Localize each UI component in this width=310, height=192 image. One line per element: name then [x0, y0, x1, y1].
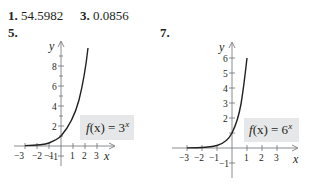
- svg-text:−3: −3: [14, 151, 24, 161]
- svg-text:3: 3: [94, 151, 99, 161]
- y-tick-labels: −124 68: [48, 62, 58, 162]
- curve-6-pow-x: [187, 58, 247, 148]
- svg-text:−1: −1: [219, 159, 229, 169]
- svg-text:2: 2: [259, 153, 264, 163]
- graphs-canvas: −3−2−1 123 −124 68 x y f(x) = 3x: [0, 0, 310, 192]
- y-axis-label: y: [48, 39, 55, 53]
- svg-text:6: 6: [223, 54, 228, 64]
- function-label: f(x) = 3x: [86, 119, 129, 135]
- svg-text:3: 3: [274, 153, 279, 163]
- function-label: f(x) = 6x: [249, 121, 292, 137]
- svg-text:5: 5: [223, 69, 228, 79]
- svg-text:3: 3: [223, 99, 228, 109]
- graph-7: −3−2−1 123 −123 456 x y f(x) = 6x: [172, 40, 299, 178]
- svg-text:−2: −2: [32, 151, 42, 161]
- svg-text:1: 1: [244, 153, 249, 163]
- y-tick-labels: −123 456: [219, 54, 229, 169]
- svg-text:6: 6: [52, 82, 57, 92]
- svg-text:−1: −1: [48, 152, 58, 162]
- y-axis-label: y: [218, 40, 225, 54]
- graph-5: −3−2−1 123 −124 68 x y f(x) = 3x: [14, 39, 134, 166]
- svg-text:1: 1: [70, 151, 75, 161]
- svg-text:2: 2: [82, 151, 87, 161]
- svg-text:−3: −3: [179, 153, 189, 163]
- svg-text:−1: −1: [209, 153, 219, 163]
- svg-text:4: 4: [223, 84, 228, 94]
- x-axis-label: x: [292, 152, 299, 166]
- svg-text:4: 4: [52, 102, 57, 112]
- svg-text:2: 2: [223, 114, 228, 124]
- svg-text:−2: −2: [194, 153, 204, 163]
- svg-text:2: 2: [52, 122, 57, 132]
- x-axis-label: x: [103, 149, 110, 163]
- svg-text:8: 8: [52, 62, 57, 72]
